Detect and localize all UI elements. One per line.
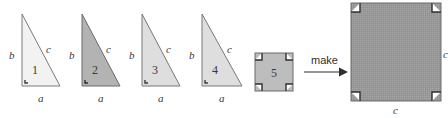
big-square-side-label-bottom: c [393, 105, 398, 116]
triangle-4: b c a 4 [180, 0, 250, 110]
triangle-2-leg-a-label: a [98, 93, 104, 104]
triangle-1-polygon [22, 14, 60, 86]
triangle-3-polygon [142, 14, 180, 86]
triangle-4-hypotenuse-c-label: c [227, 44, 232, 55]
figure-canvas: b c a 1 b c a 2 b c a 3 b c a 4 [0, 0, 448, 118]
triangle-2-number: 2 [92, 64, 98, 76]
big-square-rect [351, 3, 441, 101]
small-square-5: 5 [253, 51, 297, 95]
triangle-4-number: 4 [212, 64, 218, 76]
make-arrow-label: make [311, 55, 338, 66]
big-square-shape [349, 1, 448, 118]
big-square: c c [349, 1, 448, 118]
make-arrow: make [303, 50, 351, 82]
triangle-4-leg-b-label: b [189, 50, 195, 61]
triangle-3-hypotenuse-c-label: c [166, 44, 171, 55]
triangle-3-number: 3 [152, 64, 158, 76]
triangle-1-leg-a-label: a [38, 93, 44, 104]
arrow-head [339, 68, 348, 77]
triangle-1-leg-b-label: b [9, 50, 15, 61]
triangle-3-leg-b-label: b [129, 50, 135, 61]
triangle-1: b c a 1 [0, 0, 66, 110]
triangle-1-number: 1 [32, 64, 38, 76]
triangle-4-leg-a-label: a [219, 93, 225, 104]
small-square-number: 5 [271, 67, 277, 79]
triangle-4-polygon [202, 14, 242, 86]
triangle-1-hypotenuse-c-label: c [46, 44, 51, 55]
triangle-3: b c a 3 [120, 0, 186, 110]
triangle-2-polygon [82, 14, 120, 86]
big-square-side-label-right: c [443, 49, 448, 60]
triangle-2-leg-b-label: b [69, 50, 75, 61]
triangle-2: b c a 2 [60, 0, 126, 110]
triangle-2-hypotenuse-c-label: c [106, 44, 111, 55]
triangle-3-leg-a-label: a [158, 93, 164, 104]
